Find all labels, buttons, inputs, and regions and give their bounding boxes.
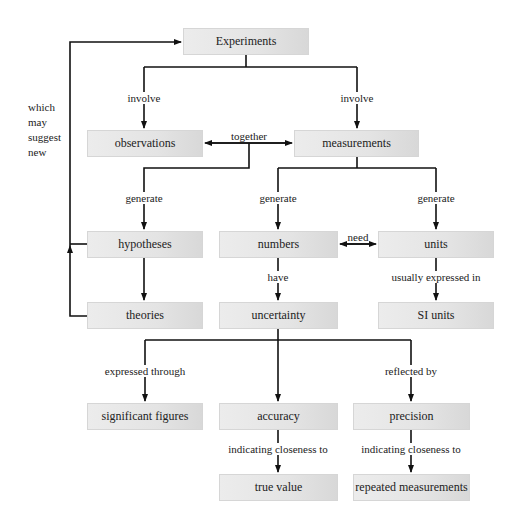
node-uncertainty: uncertainty <box>219 302 338 329</box>
node-label: hypotheses <box>118 237 171 252</box>
side-note-line: may <box>28 115 61 130</box>
node-label: SI units <box>417 308 454 323</box>
side-note-line: new <box>28 145 61 160</box>
edge-label-have: have <box>266 271 291 283</box>
node-label: uncertainty <box>252 308 306 323</box>
node-numbers: numbers <box>219 231 338 258</box>
node-label: repeated measurements <box>355 480 467 495</box>
node-label: measurements <box>322 136 391 151</box>
edge-label-involve-right: involve <box>339 92 376 104</box>
node-label: units <box>424 237 447 252</box>
edge-label-generate-hypotheses: generate <box>123 192 164 204</box>
node-label: theories <box>126 308 164 323</box>
side-note-line: suggest <box>28 130 61 145</box>
node-accuracy: accuracy <box>219 403 338 430</box>
node-units: units <box>378 231 494 258</box>
node-label: observations <box>115 136 176 151</box>
edge-label-generate-units: generate <box>415 192 456 204</box>
node-label: accuracy <box>257 409 300 424</box>
edge-label-involve-left: involve <box>126 92 163 104</box>
node-hypotheses: hypotheses <box>87 231 203 258</box>
node-observations: observations <box>87 130 203 157</box>
node-label: significant figures <box>102 409 189 424</box>
side-note: which may suggest new <box>28 100 61 160</box>
edge-label-usually-expressed-in: usually expressed in <box>389 271 482 283</box>
edge-label-generate-numbers: generate <box>257 192 298 204</box>
node-si-units: SI units <box>378 302 494 329</box>
node-label: numbers <box>258 237 299 252</box>
node-measurements: measurements <box>294 130 419 157</box>
edge-label-indicating-accuracy: indicating closeness to <box>226 443 330 455</box>
edge-label-reflected-by: reflected by <box>383 365 439 377</box>
node-label: precision <box>390 409 434 424</box>
edge-label-together: together <box>229 130 269 142</box>
node-significant-figures: significant figures <box>87 403 203 430</box>
edge-label-need: need <box>346 231 371 243</box>
side-note-line: which <box>28 100 61 115</box>
node-theories: theories <box>87 302 203 329</box>
edge-label-expressed-through: expressed through <box>103 365 187 377</box>
concept-map: Experiments observations measurements hy… <box>0 0 522 530</box>
edge-label-indicating-precision: indicating closeness to <box>359 443 463 455</box>
node-label: true value <box>255 480 303 495</box>
node-true-value: true value <box>219 474 338 501</box>
node-precision: precision <box>353 403 470 430</box>
node-label: Experiments <box>216 34 277 49</box>
node-repeated-measurements: repeated measurements <box>353 474 470 501</box>
node-experiments: Experiments <box>183 28 309 55</box>
